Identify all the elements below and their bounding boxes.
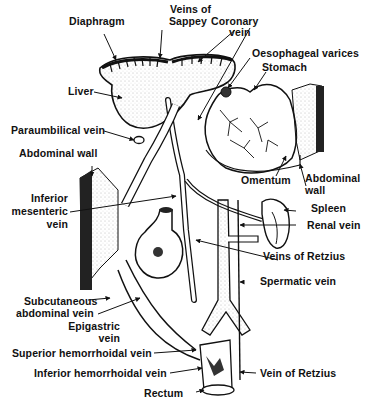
label-abdominal-wall-right-2: wall bbox=[305, 185, 325, 196]
label-inferior-mesenteric-1: Inferior bbox=[20, 193, 68, 204]
label-subcutaneous-1: Subcutaneous bbox=[24, 296, 98, 307]
label-veins-of-sappey-1: Veins of bbox=[170, 4, 211, 15]
spleen-shape bbox=[262, 199, 289, 248]
label-inferior-mesenteric-3: vein bbox=[20, 219, 68, 230]
label-epigastric-2: vein bbox=[60, 333, 120, 344]
label-rectum: Rectum bbox=[144, 388, 183, 399]
label-subcutaneous-2: abdominal vein bbox=[16, 308, 94, 319]
rectum-shape bbox=[200, 340, 234, 395]
inferior-vena-cava bbox=[202, 200, 258, 335]
label-diaphragm: Diaphragm bbox=[69, 16, 125, 27]
label-veins-of-sappey-2: Sappey bbox=[169, 16, 207, 27]
label-paraumbilical-vein: Paraumbilical vein bbox=[11, 125, 105, 136]
label-spleen: Spleen bbox=[311, 203, 346, 214]
label-spermatic-vein: Spermatic vein bbox=[260, 276, 336, 287]
spermatic-vein-line bbox=[238, 200, 240, 380]
abdominal-wall-right bbox=[292, 84, 324, 160]
label-omentum: Omentum bbox=[241, 175, 291, 186]
label-renal-vein: Renal vein bbox=[307, 220, 361, 231]
label-oesophageal-varices: Oesophageal varices bbox=[252, 48, 359, 59]
label-inferior-mesenteric-2: mesenteric bbox=[5, 206, 68, 217]
stomach-shape bbox=[205, 84, 296, 173]
label-inferior-hemorrhoidal: Inferior hemorrhoidal vein bbox=[34, 368, 167, 379]
label-vein-of-retzius: Vein of Retzius bbox=[260, 368, 336, 379]
colon-shape bbox=[135, 207, 182, 278]
label-abdominal-wall-right-1: Abdominal bbox=[305, 173, 360, 184]
label-stomach: Stomach bbox=[262, 62, 307, 73]
label-liver: Liver bbox=[68, 86, 94, 97]
label-abdominal-wall-left: Abdominal wall bbox=[19, 148, 97, 159]
abdominal-wall-left bbox=[80, 168, 118, 290]
label-superior-hemorrhoidal: Superior hemorrhoidal vein bbox=[12, 348, 152, 359]
label-epigastric-1: Epigastric bbox=[60, 321, 120, 332]
label-coronary-vein-2: vein bbox=[229, 27, 250, 38]
label-veins-of-retzius: Veins of Retzius bbox=[263, 251, 345, 262]
